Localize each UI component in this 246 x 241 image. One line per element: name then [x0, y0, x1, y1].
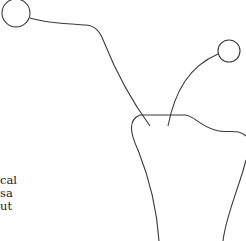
tooth-outline [131, 115, 246, 241]
tooth-diagram: cal sa ut [0, 0, 246, 241]
label-fragment-3: ut [0, 200, 17, 213]
diagram-svg [0, 0, 246, 241]
callout-marker-right [218, 40, 240, 62]
leader-line-left [30, 18, 150, 126]
cropped-label-text: cal sa ut [0, 174, 17, 213]
callout-marker-left [2, 0, 30, 27]
